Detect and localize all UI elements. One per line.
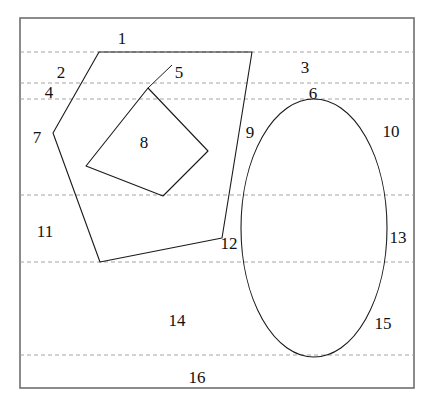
region-label-3: 3: [301, 59, 310, 76]
bounding-rectangle: [20, 18, 414, 388]
region-label-1: 1: [118, 30, 127, 47]
region-label-14: 14: [169, 312, 186, 329]
region-label-4: 4: [45, 84, 54, 101]
region-label-2: 2: [57, 64, 66, 81]
region-label-16: 16: [189, 369, 206, 386]
region-label-9: 9: [246, 124, 255, 141]
region-label-7: 7: [33, 129, 42, 146]
region-label-8: 8: [140, 134, 149, 151]
region-label-6: 6: [309, 85, 318, 102]
figure-container: 12345678910111213141516: [0, 0, 431, 406]
ellipse: [241, 99, 387, 357]
leader-line-label-5: [148, 65, 172, 88]
region-label-5: 5: [175, 64, 184, 81]
region-label-13: 13: [390, 229, 407, 246]
region-label-11: 11: [37, 223, 53, 240]
region-label-10: 10: [383, 123, 400, 140]
region-label-15: 15: [375, 315, 392, 332]
figure-canvas: [0, 0, 431, 406]
region-label-12: 12: [221, 235, 238, 252]
